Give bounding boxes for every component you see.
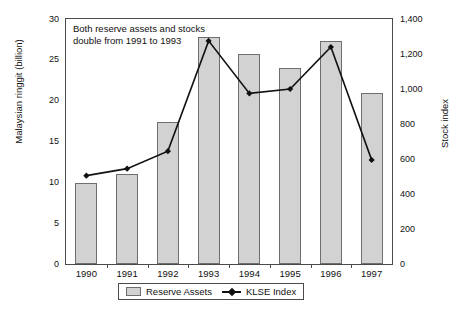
x-tick-mark	[229, 264, 230, 268]
y-left-tick-30: 30	[29, 15, 59, 24]
y-right-tick-800: 800	[400, 120, 434, 129]
x-tick-1997: 1997	[351, 269, 392, 279]
y-axis-left-title: Malaysian ringgit (billion)	[13, 22, 24, 162]
y-right-tick-1000: 1,000	[400, 85, 434, 94]
line-marker-swatch-icon	[222, 287, 241, 296]
y-right-tick-1200: 1,200	[400, 50, 434, 59]
x-tick-1993: 1993	[188, 269, 229, 279]
klse-index-line-layer	[66, 19, 392, 264]
x-tick-1992: 1992	[147, 269, 188, 279]
data-point-1991	[124, 166, 130, 172]
y-left-tick-20: 20	[29, 96, 59, 105]
legend-item-klse-index: KLSE Index	[222, 286, 296, 297]
x-tick-mark	[188, 264, 189, 268]
y-left-tick-0: 0	[29, 260, 59, 269]
y-right-tick-1400: 1,400	[400, 15, 434, 24]
y-right-tick-200: 200	[400, 225, 434, 234]
bar-swatch-icon	[126, 287, 141, 296]
x-tick-mark	[311, 264, 312, 268]
x-tick-1996: 1996	[310, 269, 351, 279]
y-right-tick-0: 0	[400, 260, 434, 269]
data-point-1997	[369, 157, 375, 163]
legend-item-reserve-assets: Reserve Assets	[126, 286, 212, 297]
y-left-tick-25: 25	[29, 55, 59, 64]
legend-label-klse-index: KLSE Index	[246, 286, 296, 297]
y-right-tick-600: 600	[400, 155, 434, 164]
x-tick-1990: 1990	[66, 269, 107, 279]
y-left-tick-5: 5	[29, 219, 59, 228]
legend-label-reserve-assets: Reserve Assets	[146, 286, 212, 297]
x-tick-mark	[270, 264, 271, 268]
y-left-tick-15: 15	[29, 137, 59, 146]
x-tick-mark	[107, 264, 108, 268]
dual-axis-combo-chart: Malaysian ringgit (billion) Stock index …	[0, 0, 458, 309]
plot-area	[65, 18, 393, 265]
x-tick-1991: 1991	[107, 269, 148, 279]
y-axis-right-title: Stock index	[439, 79, 450, 169]
y-left-tick-10: 10	[29, 178, 59, 187]
chart-annotation: Both reserve assets and stocks double fr…	[73, 23, 205, 46]
x-tick-1994: 1994	[229, 269, 270, 279]
x-tick-mark	[351, 264, 352, 268]
data-point-1990	[83, 173, 89, 179]
data-point-1992	[165, 148, 171, 154]
y-right-tick-400: 400	[400, 190, 434, 199]
klse-index-line	[86, 41, 371, 176]
x-tick-1995: 1995	[270, 269, 311, 279]
chart-legend: Reserve Assets KLSE Index	[118, 283, 304, 300]
x-tick-mark	[148, 264, 149, 268]
